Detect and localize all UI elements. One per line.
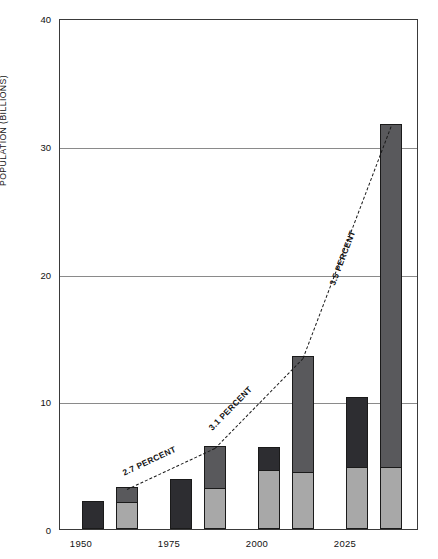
y-axis-title: POPULATION (BILLIONS) [0,0,8,186]
bar-segment-developing [83,502,103,528]
bar-segment-developing [381,125,401,469]
x-tick-label-1950: 1950 [51,538,111,549]
bar-segment-developing [205,447,225,490]
bar-segment-developing [259,448,279,472]
population-bar-chart: POPULATION (BILLIONS) 40 30 20 10 0 [0,0,438,559]
bar-segment-developed [259,470,279,528]
y-tick-label-20: 20 [5,270,51,281]
y-tick-label-40: 40 [5,14,51,25]
bar-segment-developed [293,472,313,528]
bar-segment-developed [117,502,137,528]
bar-1950-higher [116,487,138,529]
bar-segment-developed [347,467,367,528]
bar-1975-lower [170,479,192,529]
gridline-30 [60,148,417,149]
x-tick-label-1975: 1975 [139,538,199,549]
bar-1950-lower [82,501,104,529]
annotation-label-2-7-percent: 2.7 PERCENT [121,444,178,478]
bar-segment-developing [171,480,191,528]
bar-2025-higher [380,124,402,529]
y-tick-label-0: 0 [5,525,51,536]
bar-segment-developing [293,357,313,474]
bar-2000-higher [292,356,314,529]
annotation-label-3-5-percent: 3.5 PERCENT [327,229,357,287]
bar-1975-higher [204,446,226,529]
plot-area: 2.7 PERCENT 3.1 PERCENT 3.5 PERCENT [59,19,418,530]
bar-2025-lower [346,397,368,529]
x-tick-label-2000: 2000 [227,538,287,549]
bar-segment-developed [381,467,401,528]
y-tick-label-30: 30 [5,142,51,153]
bar-segment-developed [205,488,225,528]
x-tick-label-2025: 2025 [315,538,375,549]
gridline-20 [60,276,417,277]
annotation-label-3-1-percent: 3.1 PERCENT [206,384,254,432]
bar-segment-developing [347,398,367,469]
y-tick-label-10: 10 [5,397,51,408]
bar-2000-lower [258,447,280,529]
